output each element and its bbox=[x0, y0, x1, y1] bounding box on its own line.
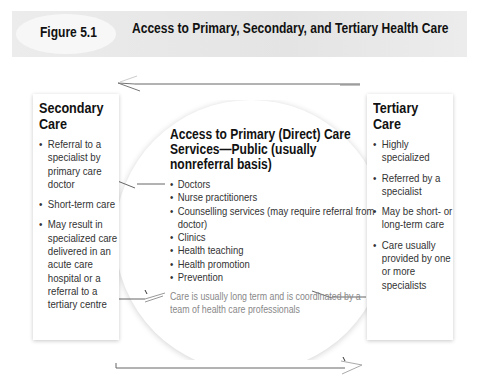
tertiary-care-card: Tertiary Care Highly specialized Referre… bbox=[367, 94, 453, 340]
primary-care-title: Access to Primary (Direct) Care Services… bbox=[170, 127, 370, 172]
list-item: Short-term care bbox=[39, 198, 125, 211]
secondary-care-title: Secondary Care bbox=[39, 100, 111, 132]
list-item: Clinics bbox=[170, 231, 377, 244]
list-item: Health promotion bbox=[170, 258, 377, 271]
list-item: Nurse practitioners bbox=[170, 191, 377, 204]
tertiary-care-list: Highly specialized Referred by a special… bbox=[373, 138, 453, 292]
list-item: Health teaching bbox=[170, 244, 377, 257]
list-item: Care usually provided by one or more spe… bbox=[373, 239, 459, 292]
primary-care-note: Care is usually long term and is coordin… bbox=[170, 290, 372, 316]
secondary-care-list: Referral to a specialist by primary care… bbox=[39, 138, 119, 312]
list-item: May be short- or long-term care bbox=[373, 205, 459, 232]
primary-care-content: Access to Primary (Direct) Care Services… bbox=[170, 127, 370, 316]
list-item: Doctors bbox=[170, 178, 377, 191]
primary-care-list: Doctors Nurse practitioners Counselling … bbox=[170, 178, 370, 284]
secondary-care-card: Secondary Care Referral to a specialist … bbox=[33, 94, 119, 340]
list-item: Counselling services (may require referr… bbox=[170, 205, 377, 232]
list-item: May result in specialized care delivered… bbox=[39, 218, 125, 311]
list-item: Prevention bbox=[170, 271, 377, 284]
tertiary-care-title: Tertiary Care bbox=[373, 100, 445, 132]
list-item: Highly specialized bbox=[373, 138, 459, 165]
list-item: Referral to a specialist by primary care… bbox=[39, 138, 125, 191]
list-item: Referred by a specialist bbox=[373, 172, 459, 199]
